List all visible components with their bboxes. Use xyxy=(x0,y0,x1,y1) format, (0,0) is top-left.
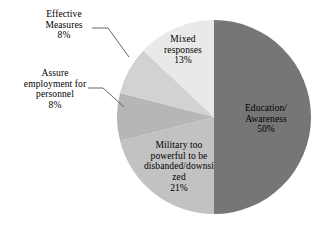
slice-label-percent: 50% xyxy=(224,124,308,135)
slice-label-effective-measures: Effective Measures 8% xyxy=(22,9,106,41)
slice-label-percent: 8% xyxy=(22,30,106,41)
slice-label-line: personnel xyxy=(0,89,110,100)
slice-label-line: powerful to be xyxy=(122,151,236,162)
slice-label-line: zed xyxy=(122,172,236,183)
slice-label-line: Effective xyxy=(22,9,106,20)
slice-label-military-too-powerful: Military too powerful to be disbanded/do… xyxy=(122,140,236,193)
slice-label-percent: 8% xyxy=(0,100,110,111)
slice-label-assure-employment: Assure employment for personnel 8% xyxy=(0,68,110,111)
slice-label-line: Measures xyxy=(22,20,106,31)
slice-label-line: Mixed xyxy=(145,34,221,45)
slice-label-line: responses xyxy=(145,45,221,56)
slice-label-percent: 13% xyxy=(145,55,221,66)
slice-label-mixed-responses: Mixed responses 13% xyxy=(145,34,221,66)
slice-label-line: employment for xyxy=(0,79,110,90)
slice-label-line: disbanded/downsi xyxy=(122,161,236,172)
slice-label-line: Education/ xyxy=(224,103,308,114)
slice-label-line: Awareness xyxy=(224,114,308,125)
slice-label-percent: 21% xyxy=(122,183,236,194)
slice-label-line: Assure xyxy=(0,68,110,79)
slice-label-line: Military too xyxy=(122,140,236,151)
pie-chart: Effective Measures 8% Assure employment … xyxy=(0,0,332,235)
slice-label-education-awareness: Education/ Awareness 50% xyxy=(224,103,308,135)
